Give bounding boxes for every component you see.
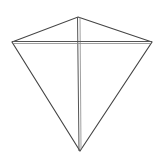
kite-icon xyxy=(0,0,163,167)
vertical-spar-edge xyxy=(80,17,81,150)
vertical-spar xyxy=(78,17,80,151)
kite-diagram xyxy=(0,0,163,167)
kite-outline xyxy=(12,17,152,151)
